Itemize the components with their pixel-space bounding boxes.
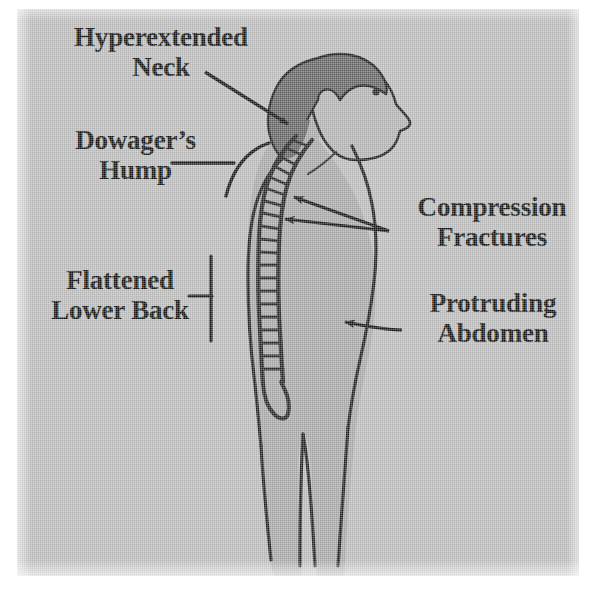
inner-leg-line-left — [300, 434, 303, 566]
label-hyperextended-neck: Hyperextended Neck — [36, 22, 286, 82]
osteoporosis-posture-figure: Hyperextended Neck Dowager’s Hump Flatte… — [0, 0, 597, 590]
vertebra-rung — [260, 239, 279, 241]
eye-icon — [372, 88, 379, 95]
label-compression-fractures: Compression Fractures — [392, 192, 592, 252]
label-flattened-lower-back: Flattened Lower Back — [20, 265, 220, 325]
label-protruding-abdomen: Protruding Abdomen — [398, 288, 588, 348]
vertebra-rung — [259, 252, 278, 253]
head-group — [268, 54, 410, 174]
label-dowagers-hump: Dowager’s Hump — [38, 125, 233, 185]
